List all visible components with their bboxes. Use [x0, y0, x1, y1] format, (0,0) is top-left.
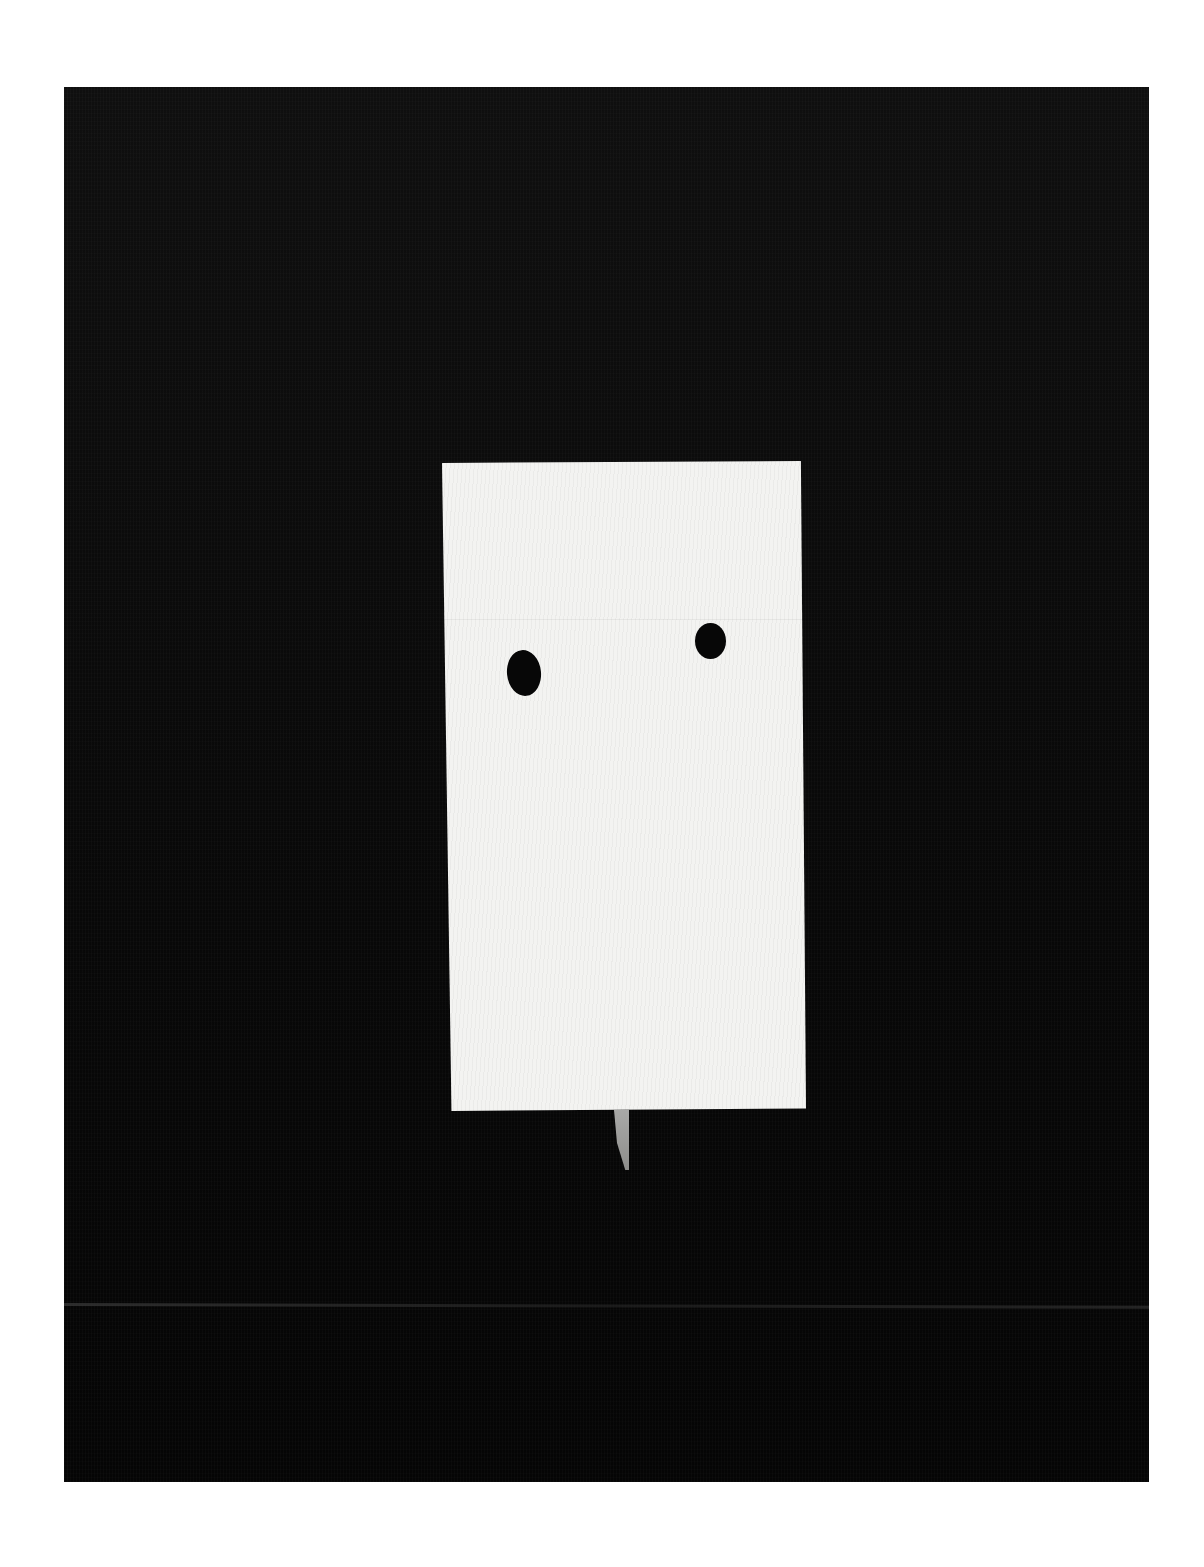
right-black-dot	[695, 623, 726, 659]
fabric-crease	[442, 619, 806, 620]
panel-seam	[64, 1303, 1149, 1309]
white-fabric-rectangle	[442, 461, 806, 1111]
